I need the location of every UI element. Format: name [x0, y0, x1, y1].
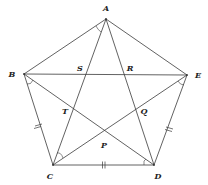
angle-arc-e	[178, 81, 184, 85]
point-labels: A B C D E S R T Q P	[8, 3, 202, 181]
label-t: T	[62, 106, 69, 116]
side-ea	[106, 19, 187, 75]
point-e	[186, 74, 188, 76]
angle-arc-a	[96, 26, 101, 32]
label-e: E	[194, 70, 202, 80]
label-a: A	[102, 3, 109, 13]
point-d	[153, 164, 155, 166]
label-d: D	[154, 171, 162, 181]
side-ab	[24, 19, 106, 74]
label-c: C	[47, 171, 54, 181]
label-q: Q	[141, 106, 148, 116]
point-a	[105, 18, 107, 20]
tick-bc-2	[34, 127, 41, 129]
side-bc	[24, 74, 53, 165]
diagonal-bd	[24, 74, 154, 165]
diagonal-ad	[106, 19, 154, 165]
tick-bc-1	[35, 124, 42, 126]
label-p: P	[100, 140, 108, 150]
angle-arc-c	[57, 153, 63, 158]
angle-arc-b	[27, 80, 33, 84]
diagonal-ac	[53, 19, 106, 165]
diagonal-ce	[53, 75, 187, 165]
label-r: R	[126, 63, 134, 73]
diagonal-be	[24, 74, 187, 75]
point-c	[52, 164, 54, 166]
point-b	[23, 73, 25, 75]
label-b: B	[8, 69, 16, 79]
side-de	[154, 75, 187, 165]
pentagon-diagram: A B C D E S R T Q P	[0, 0, 208, 185]
angle-arc-d	[144, 159, 146, 165]
label-s: S	[77, 63, 83, 73]
